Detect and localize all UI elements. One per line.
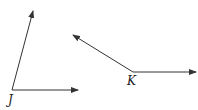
angle-k [73,35,196,72]
label-k: K [127,74,136,88]
ray-k-left [73,35,133,72]
angle-diagram: J K [0,0,198,110]
label-j: J [8,93,13,107]
angle-svg [0,0,198,110]
angle-j [12,11,78,90]
ray-j-up [12,11,33,90]
